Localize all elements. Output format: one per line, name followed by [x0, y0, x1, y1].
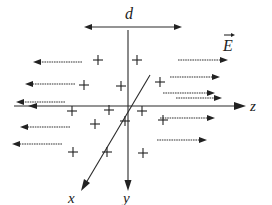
field-arrow-left-icon [33, 59, 41, 65]
field-arrows-left [12, 59, 82, 147]
plus-charge-icon [137, 106, 147, 116]
x-axis-label: x [67, 190, 75, 205]
z-axis-arrowhead-icon [234, 102, 246, 110]
field-arrow-right-icon [214, 95, 222, 101]
diagram-svg: d y z x E [0, 0, 272, 205]
field-arrow-right-icon [207, 115, 215, 121]
field-arrow-right-icon [207, 90, 215, 96]
field-label: E [222, 37, 233, 54]
plus-charge-icon [67, 106, 77, 116]
x-axis [81, 75, 150, 191]
plus-charge-icon [102, 147, 112, 157]
plus-charge-icon [132, 55, 142, 65]
plus-charge-icon [155, 77, 165, 87]
y-axis [125, 30, 132, 191]
plus-charge-icon [138, 148, 148, 158]
separation-arrow [84, 24, 182, 30]
plus-charge-icon [90, 119, 100, 129]
arrowhead-left-icon [84, 24, 92, 30]
field-arrow-left-icon [16, 99, 24, 105]
plus-charge-icon [93, 55, 103, 65]
plus-charge-icon [79, 80, 89, 90]
z-axis-left-arrowhead-icon [28, 103, 37, 109]
field-arrow-left-icon [12, 141, 20, 147]
z-axis-label: z [249, 98, 256, 114]
field-arrow-left-icon [20, 124, 28, 130]
arrowhead-right-icon [174, 24, 182, 30]
field-arrow-right-icon [212, 74, 220, 80]
plus-charge-icon [68, 147, 78, 157]
field-arrow-right-icon [199, 137, 207, 143]
y-axis-label: y [121, 190, 130, 205]
plus-charge-icon [158, 115, 168, 125]
charged-slab-field-diagram: d y z x E [0, 0, 272, 205]
field-label-group: E [222, 33, 235, 54]
x-axis-arrowhead-icon [81, 179, 90, 191]
field-arrows-right [157, 57, 228, 143]
separation-label: d [125, 5, 134, 22]
plus-charge-icon [116, 81, 126, 91]
field-arrow-left-icon [25, 81, 33, 87]
field-arrow-right-icon [220, 57, 228, 63]
